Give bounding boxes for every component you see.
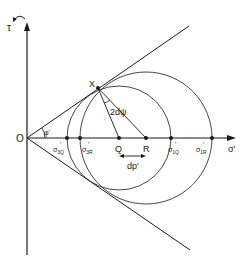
dp-label: dp' bbox=[127, 161, 139, 171]
lower-failure-envelope bbox=[27, 138, 190, 250]
mohr-circle-diagram: τ σ' O φ' X Q R 2dψ dp' σ3Q σ3R σ1Q σ1R … bbox=[0, 0, 251, 269]
tau-axis-arrow-icon bbox=[24, 22, 30, 31]
origin-label: O bbox=[16, 133, 24, 144]
dp-arrow-right-icon bbox=[141, 154, 146, 158]
point-s1q bbox=[169, 136, 173, 140]
sigma-1r-label: σ1R bbox=[196, 146, 207, 155]
tau-label: τ bbox=[7, 22, 11, 33]
point-r bbox=[144, 136, 148, 140]
point-x bbox=[96, 86, 100, 90]
sigma-3q-label: σ3Q bbox=[53, 146, 64, 155]
r-label: R bbox=[143, 144, 150, 154]
phi-label: φ' bbox=[44, 129, 50, 137]
dpsi-angle-arc bbox=[104, 100, 110, 103]
point-s1r bbox=[210, 136, 214, 140]
q-label: Q bbox=[115, 144, 122, 154]
x-label: X bbox=[89, 79, 95, 89]
sigma-1q-label: σ1Q bbox=[168, 146, 179, 155]
point-q bbox=[117, 136, 121, 140]
prime-3r: ' bbox=[88, 141, 89, 148]
prime-1q: ' bbox=[175, 141, 176, 148]
dp-arrow-left-icon bbox=[119, 154, 124, 158]
dpsi-label: 2dψ bbox=[110, 107, 126, 117]
prime-1r: ' bbox=[203, 141, 204, 148]
sigma-axis-label: σ' bbox=[228, 144, 236, 154]
point-s3r bbox=[78, 136, 82, 140]
prime-3q: ' bbox=[60, 141, 61, 148]
sigma-axis-arrow-icon bbox=[227, 135, 236, 141]
point-s3q bbox=[65, 136, 69, 140]
upper-failure-envelope bbox=[27, 26, 189, 138]
